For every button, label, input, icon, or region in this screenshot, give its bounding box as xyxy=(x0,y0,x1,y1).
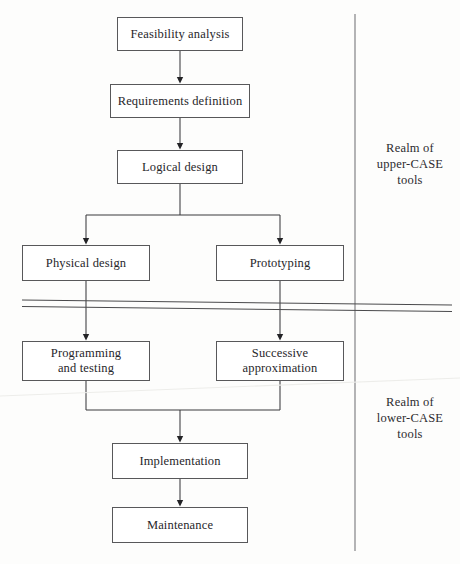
node-label: Maintenance xyxy=(143,518,217,533)
node-maintenance[interactable]: Maintenance xyxy=(112,507,248,543)
node-label: Programming and testing xyxy=(47,346,125,376)
node-logical-design[interactable]: Logical design xyxy=(117,150,243,184)
node-label: Successive approximation xyxy=(239,346,322,376)
node-feasibility-analysis[interactable]: Feasibility analysis xyxy=(117,17,243,51)
node-prototyping[interactable]: Prototyping xyxy=(216,245,344,281)
node-label: Implementation xyxy=(135,454,224,469)
diagram-canvas: Feasibility analysis Requirements defini… xyxy=(0,0,460,564)
node-successive-approximation[interactable]: Successive approximation xyxy=(216,341,344,381)
horizontal-divider-line-top xyxy=(22,300,452,305)
node-label: Prototyping xyxy=(246,256,315,271)
realm-label-lower-case: Realm of lower-CASE tools xyxy=(366,394,454,442)
node-label: Requirements definition xyxy=(114,94,247,109)
node-physical-design[interactable]: Physical design xyxy=(22,245,150,281)
node-label: Physical design xyxy=(42,256,130,271)
node-implementation[interactable]: Implementation xyxy=(112,443,248,479)
node-programming-and-testing[interactable]: Programming and testing xyxy=(22,341,150,381)
node-requirements-definition[interactable]: Requirements definition xyxy=(110,84,250,118)
horizontal-divider-line-bottom xyxy=(22,307,452,312)
realm-label-upper-case: Realm of upper-CASE tools xyxy=(366,140,454,188)
node-label: Feasibility analysis xyxy=(126,27,233,42)
node-label: Logical design xyxy=(138,160,222,175)
